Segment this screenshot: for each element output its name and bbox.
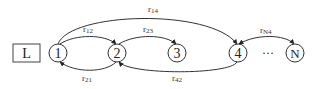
edge-rN4 (239, 37, 294, 45)
label-r42: r42 (172, 73, 183, 84)
start-box-label: L (22, 46, 31, 61)
node-4: 4 (229, 44, 247, 62)
label-rN4: rN4 (260, 25, 272, 36)
ellipsis: ··· (262, 46, 274, 60)
svg-text:4: 4 (235, 46, 242, 61)
edge-r12 (60, 37, 116, 45)
label-r23: r23 (143, 24, 154, 35)
node-1: 1 (49, 44, 67, 62)
node-2: 2 (108, 44, 126, 62)
transition-diagram: L 1 2 3 4 ··· N r14 r12 r23 rN4 r21 r42 (0, 0, 316, 89)
edge-r21 (60, 62, 116, 70)
node-3: 3 (168, 44, 186, 62)
node-N: N (286, 44, 304, 62)
label-r21: r21 (82, 73, 93, 84)
svg-text:2: 2 (114, 46, 121, 61)
svg-text:1: 1 (55, 46, 62, 61)
svg-text:N: N (290, 46, 300, 61)
label-r14: r14 (148, 4, 159, 15)
svg-text:3: 3 (174, 46, 181, 61)
start-box: L (13, 44, 40, 62)
edge-r42 (119, 62, 237, 72)
edge-r23 (119, 37, 176, 45)
